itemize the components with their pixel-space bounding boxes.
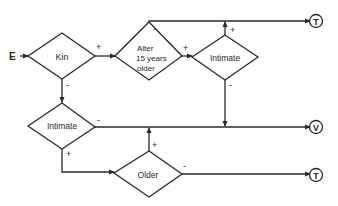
terminal-v-label: V xyxy=(313,123,319,133)
older-plus-sign: + xyxy=(152,140,157,150)
kin-minus-sign: - xyxy=(66,80,69,90)
alter-minus-arrow xyxy=(149,21,310,22)
alter-plus-sign: + xyxy=(183,43,188,53)
terminal-t-bottom-label: T xyxy=(313,171,319,181)
intimate-top-label: Intimate xyxy=(210,53,241,63)
intimate-bottom-minus-sign: - xyxy=(97,115,100,125)
older-label: Older xyxy=(138,170,159,180)
older-minus-sign: - xyxy=(183,161,186,171)
alter-minus-sign: - xyxy=(153,24,156,34)
alter-label-line1: Alter xyxy=(137,44,154,53)
intimate-top-minus-sign: - xyxy=(229,80,232,90)
flowchart: E Kin Alter 15 years older Intimate Inti… xyxy=(0,0,338,206)
alter-label-line2: 15 years xyxy=(136,54,167,63)
alter-label-line3: older xyxy=(137,64,155,73)
kin-label: Kin xyxy=(55,52,68,62)
kin-plus-sign: + xyxy=(96,42,101,52)
intimate-bottom-label: Intimate xyxy=(47,121,78,131)
intimate-top-plus-sign: + xyxy=(230,25,235,35)
entry-label: E xyxy=(9,51,16,62)
terminal-t-top-label: T xyxy=(313,17,319,27)
intimate-bottom-plus-sign: + xyxy=(66,149,71,159)
